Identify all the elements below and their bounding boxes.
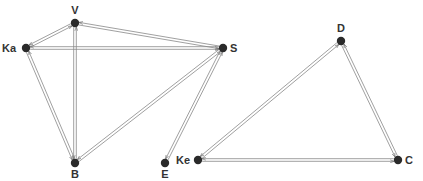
node-label: E [161,168,168,180]
edge-ka-s [30,47,219,50]
node-label: B [71,168,79,180]
edge-v-s [79,22,219,48]
edge-arrow-forward [79,25,219,49]
node-e: E [161,159,169,180]
edge-arrow-backward [344,44,397,155]
edge-ke-d [200,43,338,159]
edge-arrow-backward [29,24,71,45]
node-dot [194,156,202,164]
node-ka: Ka [2,42,30,54]
node-dot [71,19,79,27]
node-v: V [71,4,80,27]
node-dot [394,156,402,164]
node-s: S [219,42,238,54]
edge-arrow-forward [78,50,219,160]
node-ke: Ke [176,154,202,166]
node-dot [161,159,169,167]
node-dot [71,159,79,167]
node-label: S [230,42,237,54]
edge-arrow-forward [26,52,72,159]
node-label: V [71,4,79,16]
node-c: C [394,154,413,166]
edge-d-c [342,44,398,157]
graph-svg: VKaSBEKeDC [0,0,423,181]
edge-arrow-backward [79,22,219,46]
edge-s-e [166,51,223,160]
edge-arrow-backward [79,52,220,162]
node-label: Ka [2,42,17,54]
edge-arrow-forward [166,51,220,158]
edge-ka-v [29,24,72,47]
node-dot [219,44,227,52]
edge-ka-b [26,51,74,159]
edge-arrow-backward [29,51,75,158]
node-dot [22,44,30,52]
edge-arrow-forward [202,45,339,159]
edge-s-b [78,50,221,162]
edge-arrow-backward [200,43,337,157]
edge-arrow-forward [342,45,395,156]
node-label: C [405,154,413,166]
node-d: D [337,22,345,45]
node-label: Ke [176,154,190,166]
edge-arrow-forward [30,26,72,47]
edge-ke-c [202,159,394,162]
node-label: D [337,22,345,34]
graph-canvas: VKaSBEKeDC [0,0,423,181]
node-dot [337,37,345,45]
node-b: B [71,159,79,180]
